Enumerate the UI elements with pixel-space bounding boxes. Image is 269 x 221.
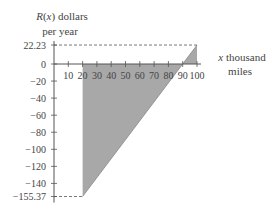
y-axis-label-line2: per year <box>42 25 78 37</box>
y-tick-label: −155.37 <box>13 191 46 202</box>
x-tick-label: 30 <box>92 70 102 81</box>
y-tick-label: −100 <box>25 144 46 155</box>
x-tick-label: 70 <box>149 70 159 81</box>
y-tick-label: −80 <box>30 127 46 138</box>
x-tick-label: 100 <box>190 70 205 81</box>
x-tick-label: 40 <box>106 70 116 81</box>
x-tick-label: 90 <box>178 70 188 81</box>
x-tick-label: 20 <box>78 70 88 81</box>
y-tick-label: 22.23 <box>24 40 47 51</box>
y-axis-label: R(x) dollars <box>35 10 88 23</box>
y-tick-label: −60 <box>30 110 46 121</box>
x-tick-label: 10 <box>63 70 73 81</box>
x-axis-label: x thousand <box>217 51 266 63</box>
x-tick-label: 50 <box>121 70 131 81</box>
y-tick-label: −20 <box>30 76 46 87</box>
y-tick-label: 0 <box>41 59 46 70</box>
x-tick-label: 60 <box>135 70 145 81</box>
x-tick-label: 80 <box>163 70 173 81</box>
chart: 22.230−20−40−60−80−100−120−140−155.37102… <box>0 0 269 221</box>
y-tick-label: −140 <box>25 178 46 189</box>
y-tick-label: −40 <box>30 93 46 104</box>
x-axis-label-line2: miles <box>228 65 252 77</box>
y-tick-label: −120 <box>25 161 46 172</box>
